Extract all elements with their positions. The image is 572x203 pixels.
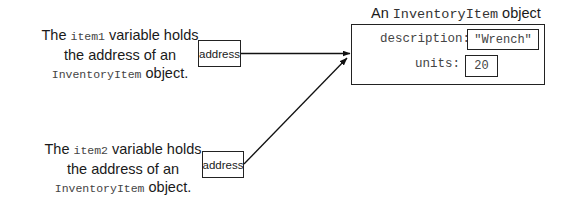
reference-arrows <box>0 0 572 203</box>
item2-arrow <box>244 58 347 164</box>
